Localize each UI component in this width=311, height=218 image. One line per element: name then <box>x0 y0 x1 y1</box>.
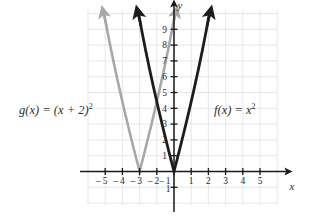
y-tick-label-9: 9 <box>162 25 167 35</box>
y-tick-label--1: 1 <box>166 184 171 194</box>
x-tick-label-4: 4 <box>240 176 245 186</box>
function-label-g-text: g(x) = (x + 2) <box>19 103 89 117</box>
y-tick-label-5: 5 <box>162 88 167 98</box>
x-tick-neg-sign-4: – <box>112 176 118 186</box>
x-tick-label-2: 2 <box>206 176 211 186</box>
x-tick-neg-sign-5: – <box>95 176 101 186</box>
y-tick-label-1: 1 <box>162 151 167 161</box>
function-label-g-exponent: 2 <box>89 102 93 111</box>
function-label-f: f(x) = x2 <box>214 104 256 117</box>
x-tick-label-5: 5 <box>258 176 263 186</box>
y-tick-label-4: 4 <box>162 104 167 114</box>
graph-figure: 5 – 4 – 3 – 2 – 1 – 1 2 3 4 5 9 8 7 6 5 … <box>0 0 311 218</box>
x-tick-neg-sign-2: – <box>147 176 153 186</box>
y-tick-label-8: 8 <box>162 40 167 50</box>
y-tick-label-7: 7 <box>162 56 167 66</box>
y-tick-label-2: 2 <box>162 135 167 145</box>
x-tick-label-1: 1 <box>189 176 194 186</box>
function-label-g: g(x) = (x + 2)2 <box>19 104 93 117</box>
x-tick-label-3: 3 <box>223 176 228 186</box>
x-axis-name: x <box>289 180 295 192</box>
function-label-f-text: f(x) = x <box>214 103 252 117</box>
y-tick-label-3: 3 <box>162 119 167 129</box>
x-tick-neg-sign-3: – <box>129 176 135 186</box>
x-tick-neg-sign-1: – <box>158 176 164 186</box>
x-tick-label--3: 3 <box>137 176 142 186</box>
y-axis-name: y <box>177 0 183 11</box>
curve-f-arrow-left <box>138 12 141 26</box>
function-label-f-exponent: 2 <box>252 102 256 111</box>
y-tick-label-6: 6 <box>162 72 167 82</box>
curve-f-arrow-right <box>207 12 210 26</box>
x-tick-label--5: 5 <box>103 176 108 186</box>
curve-g-arrow-left <box>103 12 106 26</box>
x-tick-label--4: 4 <box>120 176 125 186</box>
